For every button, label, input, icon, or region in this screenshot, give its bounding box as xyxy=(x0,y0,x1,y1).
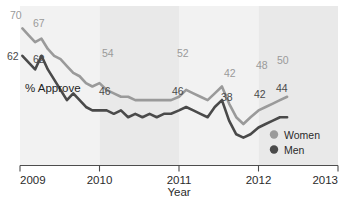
data-label-women-48-5: 48 xyxy=(256,59,268,71)
legend-swatch-men xyxy=(270,145,278,153)
band-1 xyxy=(100,6,180,165)
data-label-men-42-12: 42 xyxy=(254,88,266,100)
chart-figure: 7067545242485062624646384244 20092010201… xyxy=(0,0,362,211)
band-3 xyxy=(259,6,339,165)
data-label-women-52-3: 52 xyxy=(177,47,189,59)
data-label-men-62-8: 62 xyxy=(33,53,45,65)
data-label-men-44-13: 44 xyxy=(276,82,288,94)
x-tick-label-2010: 2010 xyxy=(87,174,113,186)
x-tick-label-2012: 2012 xyxy=(246,174,272,186)
x-axis: 20092010201120122013 xyxy=(20,166,338,187)
data-label-women-67-1: 67 xyxy=(33,17,45,29)
x-tick-label-2013: 2013 xyxy=(312,174,338,186)
x-axis-title: Year xyxy=(167,186,190,198)
legend-label-women: Women xyxy=(284,129,320,141)
data-label-women-42-4: 42 xyxy=(224,67,236,79)
band-2 xyxy=(179,6,259,165)
data-label-men-46-10: 46 xyxy=(172,85,184,97)
x-tick-label-2009: 2009 xyxy=(20,174,46,186)
x-axis-ticks xyxy=(20,166,338,172)
line-chart: 7067545242485062624646384244 20092010201… xyxy=(0,0,362,211)
x-axis-tick-labels: 20092010201120122013 xyxy=(20,174,338,186)
data-label-men-38-11: 38 xyxy=(221,91,233,103)
data-label-men-46-9: 46 xyxy=(99,85,111,97)
legend-swatch-women xyxy=(270,130,278,138)
legend-label-men: Men xyxy=(284,144,305,156)
x-tick-label-2011: 2011 xyxy=(167,174,192,186)
data-label-men-62-7: 62 xyxy=(7,50,19,62)
data-label-women-54-2: 54 xyxy=(102,47,114,59)
data-label-women-70-0: 70 xyxy=(10,9,22,21)
y-axis-label: % Approve xyxy=(25,82,81,94)
data-label-women-50-6: 50 xyxy=(277,54,289,66)
